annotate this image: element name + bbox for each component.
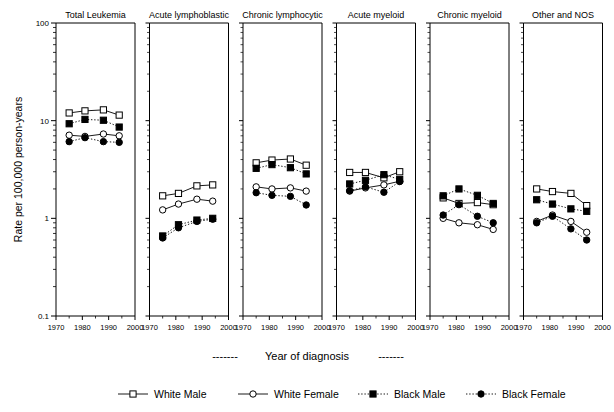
marker-filled-square <box>490 200 496 206</box>
marker-open-circle <box>269 186 275 192</box>
legend-label: Black Female <box>502 388 566 400</box>
marker-filled-circle <box>269 192 275 198</box>
marker-filled-square <box>362 177 368 183</box>
panel-2: 1970198019902000Acute lymphoblastic <box>141 10 237 332</box>
marker-open-square <box>100 107 106 113</box>
panel-3: 1970198019902000Chronic lymphocytic <box>235 10 331 332</box>
series-line <box>69 138 119 143</box>
panel-title: Chronic lymphocytic <box>242 10 323 20</box>
marker-filled-circle <box>533 220 539 226</box>
legend-marker-filled-circle <box>478 391 484 397</box>
y-axis-tick-label: 10 <box>40 117 49 126</box>
panel-title: Acute myeloid <box>348 10 405 20</box>
legend-item-white-female[interactable]: White Female <box>238 388 339 400</box>
marker-filled-circle <box>303 202 309 208</box>
marker-filled-square <box>534 197 540 203</box>
marker-open-circle <box>175 201 181 207</box>
series-line <box>163 199 213 210</box>
marker-filled-circle <box>210 216 216 222</box>
x-axis-tick-label: 2000 <box>594 323 611 332</box>
legend: White MaleWhite FemaleBlack MaleBlack Fe… <box>118 388 566 400</box>
marker-open-square <box>160 193 166 199</box>
x-axis-title-text: Year of diagnosis <box>265 350 349 362</box>
legend-marker-open-circle <box>250 391 256 397</box>
marker-filled-square <box>584 208 590 214</box>
marker-filled-square <box>116 124 122 130</box>
x-axis-tick-label: 1970 <box>422 323 439 332</box>
panel-5: 1970198019902000Chronic myeloid <box>422 10 518 332</box>
legend-marker-filled-square <box>370 391 376 397</box>
marker-open-circle <box>100 131 106 137</box>
marker-filled-square <box>440 193 446 199</box>
marker-open-circle <box>287 185 293 191</box>
x-axis-tick-label: 1980 <box>448 323 465 332</box>
x-axis-tick-label: 1980 <box>74 323 91 332</box>
marker-open-square <box>568 190 574 196</box>
series-line <box>69 119 119 127</box>
marker-filled-circle <box>568 226 574 232</box>
marker-filled-square <box>66 121 72 127</box>
marker-filled-circle <box>159 235 165 241</box>
series-line <box>537 216 587 240</box>
marker-open-square <box>82 108 88 114</box>
marker-filled-square <box>269 161 275 167</box>
marker-open-square <box>116 112 122 118</box>
x-axis-title-prefix: ------- <box>212 350 238 362</box>
marker-filled-circle <box>194 218 200 224</box>
legend-item-white-male[interactable]: White Male <box>118 388 207 400</box>
marker-open-square <box>194 183 200 189</box>
panel-title: Other and NOS <box>532 10 594 20</box>
marker-open-circle <box>194 196 200 202</box>
panel-1: 1970198019902000Total Leukemia <box>48 10 144 332</box>
x-axis-title: -------Year of diagnosis------- <box>212 350 404 362</box>
marker-filled-circle <box>66 138 72 144</box>
series-line <box>69 134 119 136</box>
y-axis-tick-label: 100 <box>36 19 50 28</box>
marker-filled-circle <box>381 189 387 195</box>
legend-label: Black Male <box>394 388 446 400</box>
marker-open-square <box>303 162 309 168</box>
marker-open-circle <box>66 132 72 138</box>
marker-open-square <box>210 182 216 188</box>
series-line <box>163 218 213 236</box>
x-axis-tick-label: 1970 <box>328 323 345 332</box>
marker-filled-square <box>100 117 106 123</box>
legend-item-black-female[interactable]: Black Female <box>466 388 566 400</box>
marker-filled-square <box>347 181 353 187</box>
marker-open-circle <box>303 188 309 194</box>
series-line <box>443 189 493 204</box>
x-axis-tick-label: 1990 <box>568 323 585 332</box>
marker-open-circle <box>474 222 480 228</box>
marker-filled-circle <box>116 139 122 145</box>
marker-filled-circle <box>175 225 181 231</box>
x-axis-tick-label: 1970 <box>141 323 158 332</box>
marker-filled-circle <box>253 190 259 196</box>
marker-open-circle <box>210 198 216 204</box>
panel-4: 1970198019902000Acute myeloid <box>328 10 424 332</box>
series-line <box>443 198 493 205</box>
panel-title: Total Leukemia <box>65 10 126 20</box>
marker-filled-square <box>474 192 480 198</box>
series-line <box>163 185 213 196</box>
legend-item-black-male[interactable]: Black Male <box>358 388 446 400</box>
x-axis-tick-label: 1990 <box>194 323 211 332</box>
series-line <box>443 218 493 229</box>
x-axis-tick-label: 1970 <box>48 323 65 332</box>
marker-filled-square <box>303 171 309 177</box>
y-axis-title: Rate per 100,000 person-years <box>12 97 24 242</box>
x-axis-tick-label: 1980 <box>261 323 278 332</box>
marker-filled-square <box>456 186 462 192</box>
marker-filled-square <box>549 201 555 207</box>
panel-title: Chronic myeloid <box>437 10 502 20</box>
series-line <box>537 215 587 232</box>
marker-filled-circle <box>287 193 293 199</box>
x-axis-title-suffix: ------- <box>378 350 404 362</box>
marker-open-square <box>534 186 540 192</box>
marker-filled-circle <box>82 134 88 140</box>
marker-open-circle <box>584 229 590 235</box>
series-line <box>69 110 119 115</box>
marker-open-square <box>287 156 293 162</box>
panel-6: 1970198019902000Other and NOS <box>515 10 611 332</box>
marker-filled-circle <box>362 184 368 190</box>
marker-filled-circle <box>440 212 446 218</box>
